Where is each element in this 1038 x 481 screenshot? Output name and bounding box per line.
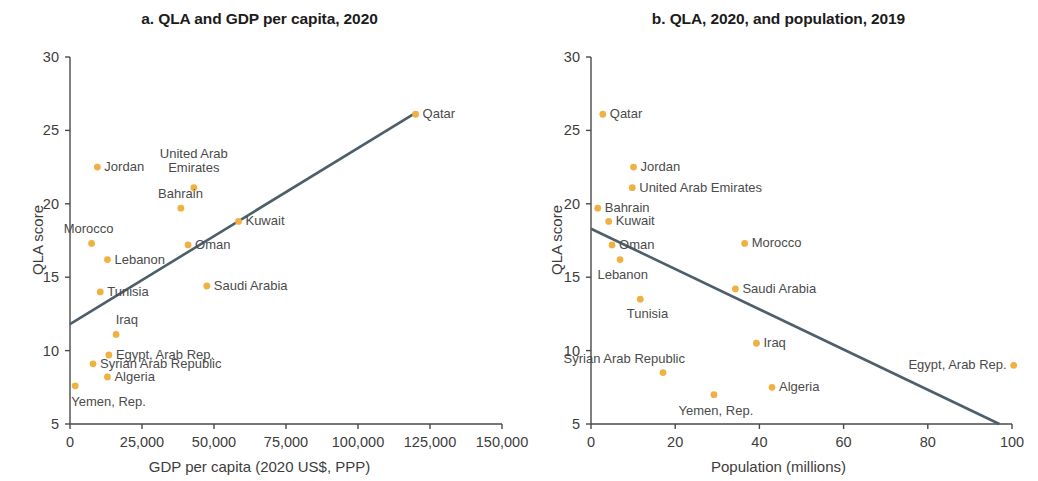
scatter-point <box>637 296 644 303</box>
x-tick-label: 20 <box>667 434 683 450</box>
panel-a-ylabel-wrap: QLA score <box>8 55 30 425</box>
y-tick-label: 25 <box>17 122 59 138</box>
scatter-point <box>769 384 776 391</box>
panel-b-ylabel-wrap: QLA score <box>527 55 549 425</box>
panel-b: b. QLA, 2020, and population, 2019 QLA s… <box>519 0 1038 481</box>
scatter-point <box>72 382 79 389</box>
scatter-point-label: Oman <box>195 238 230 252</box>
panel-a-x-axis-title: GDP per capita (2020 US$, PPP) <box>0 458 519 475</box>
scatter-point-label: Syrian Arab Republic <box>564 352 685 366</box>
x-tick-label: 75,000 <box>264 434 308 450</box>
panel-b-plot-area: 51015202530020406080100QatarJordanUnited… <box>591 57 1012 424</box>
scatter-point-label: Iraq <box>763 336 785 350</box>
x-tick-label: 50,000 <box>192 434 236 450</box>
x-tick-label: 0 <box>66 434 74 450</box>
panel-a-y-axis-title: QLA score <box>29 205 46 275</box>
scatter-point-label: Bahrain <box>158 187 203 201</box>
scatter-point <box>104 374 111 381</box>
scatter-point <box>412 111 419 118</box>
scatter-point-label: Lebanon <box>597 268 648 282</box>
panel-a-title: a. QLA and GDP per capita, 2020 <box>0 10 519 28</box>
trend-line <box>591 229 999 424</box>
panel-b-svg <box>591 57 1038 464</box>
scatter-point-label: Oman <box>619 238 654 252</box>
panel-b-y-axis-title: QLA score <box>548 205 565 275</box>
scatter-point <box>185 242 192 249</box>
scatter-point <box>711 391 718 398</box>
panel-a-plot-area: 51015202530025,00050,00075,000100,000125… <box>70 57 502 424</box>
y-tick-label: 20 <box>538 196 580 212</box>
scatter-point <box>660 369 667 376</box>
scatter-point-label: Yemen, Rep. <box>71 395 146 409</box>
y-tick-label: 15 <box>538 269 580 285</box>
x-tick-label: 80 <box>920 434 936 450</box>
scatter-point <box>741 240 748 247</box>
y-tick-label: 25 <box>538 122 580 138</box>
scatter-point <box>235 218 242 225</box>
x-tick-label: 100,000 <box>332 434 384 450</box>
scatter-point <box>88 240 95 247</box>
scatter-point <box>605 218 612 225</box>
scatter-point <box>90 360 97 367</box>
x-tick-label: 0 <box>587 434 595 450</box>
y-tick-label: 20 <box>17 196 59 212</box>
scatter-point-label: Tunisia <box>627 307 668 321</box>
y-tick-label: 30 <box>17 49 59 65</box>
scatter-point-label: Iraq <box>116 313 138 327</box>
scatter-point-label: Algeria <box>779 380 819 394</box>
x-tick-label: 100 <box>1000 434 1024 450</box>
scatter-point-label: Kuwait <box>616 214 655 228</box>
scatter-point-label: Jordan <box>104 160 144 174</box>
figure-two-panel-scatter: a. QLA and GDP per capita, 2020 QLA scor… <box>0 0 1038 481</box>
y-tick-label: 30 <box>538 49 580 65</box>
panel-b-x-axis-title: Population (millions) <box>519 458 1038 475</box>
y-tick-label: 10 <box>17 343 59 359</box>
scatter-point <box>113 331 120 338</box>
scatter-point <box>203 283 210 290</box>
scatter-point-label: Jordan <box>641 160 681 174</box>
scatter-point-label: Morocco <box>64 222 114 236</box>
x-tick-label: 60 <box>836 434 852 450</box>
scatter-point <box>617 256 624 263</box>
scatter-point <box>94 164 101 171</box>
y-tick-label: 5 <box>17 416 59 432</box>
scatter-point-label: Qatar <box>423 107 456 121</box>
panel-a: a. QLA and GDP per capita, 2020 QLA scor… <box>0 0 519 481</box>
scatter-point <box>753 340 760 347</box>
scatter-point-label: Algeria <box>114 370 154 384</box>
scatter-point-label: Morocco <box>752 236 802 250</box>
scatter-point-label: Qatar <box>610 107 643 121</box>
scatter-point <box>629 184 636 191</box>
scatter-point-label: Yemen, Rep. <box>679 404 754 418</box>
x-tick-label: 40 <box>751 434 767 450</box>
scatter-point-label: United ArabEmirates <box>160 147 228 175</box>
scatter-point <box>594 205 601 212</box>
scatter-point-label: Lebanon <box>114 253 165 267</box>
panel-b-title: b. QLA, 2020, and population, 2019 <box>519 10 1038 28</box>
scatter-point <box>630 164 637 171</box>
scatter-point-label: Kuwait <box>245 214 284 228</box>
scatter-point <box>97 288 104 295</box>
scatter-point <box>609 242 616 249</box>
scatter-point <box>732 286 739 293</box>
scatter-point-label: Egypt, Arab Rep. <box>908 358 1006 372</box>
y-tick-label: 15 <box>17 269 59 285</box>
scatter-point <box>177 205 184 212</box>
y-tick-label: 5 <box>538 416 580 432</box>
scatter-point-label: United Arab Emirates <box>639 181 762 195</box>
x-tick-label: 125,000 <box>404 434 456 450</box>
scatter-point-label: Saudi Arabia <box>214 279 288 293</box>
scatter-point <box>599 111 606 118</box>
scatter-point <box>1010 362 1017 369</box>
scatter-point-label: Saudi Arabia <box>742 282 816 296</box>
x-tick-label: 25,000 <box>120 434 164 450</box>
scatter-point-label: Tunisia <box>107 285 148 299</box>
scatter-point <box>104 256 111 263</box>
